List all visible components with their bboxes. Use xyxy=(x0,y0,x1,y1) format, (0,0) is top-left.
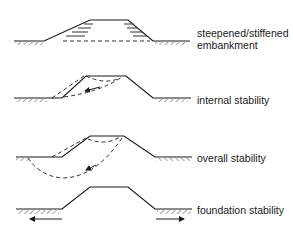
label-steepened-embankment: steepened/stiffened embankment xyxy=(197,27,288,51)
ground-hatch-right xyxy=(155,42,187,45)
ground-hatch-left xyxy=(15,99,47,102)
failure-wedge-dashed xyxy=(52,138,86,157)
embankment-outline xyxy=(16,187,192,209)
embankment-outline xyxy=(16,136,192,157)
label-line-1: foundation stability xyxy=(197,204,284,216)
panel-overall-stability xyxy=(16,136,192,178)
label-internal-stability: internal stability xyxy=(197,94,269,106)
ground-hatch-right xyxy=(156,158,190,161)
label-foundation-stability: foundation stability xyxy=(197,204,284,216)
slip-surface-upper-dashed xyxy=(88,137,120,142)
deep-slip-circle-dashed xyxy=(28,138,122,178)
label-line-1: overall stability xyxy=(197,152,266,164)
ground-hatch-right xyxy=(156,99,188,102)
embankment-outline xyxy=(14,20,190,41)
ground-hatch-left xyxy=(17,210,59,214)
slip-surface-upper-dashed xyxy=(86,76,120,81)
panel-steepened-embankment xyxy=(14,20,190,45)
label-line-1: steepened/stiffened xyxy=(197,27,288,39)
label-line-1: internal stability xyxy=(197,94,269,106)
reinforcement-layers-left xyxy=(66,24,93,36)
ground-hatch-left xyxy=(15,42,43,45)
embankment-outline xyxy=(14,76,191,98)
panel-internal-stability xyxy=(14,76,191,102)
label-line-2: embankment xyxy=(197,39,288,51)
panel-foundation-stability xyxy=(16,187,192,219)
ground-hatch-right xyxy=(157,210,191,214)
label-overall-stability: overall stability xyxy=(197,152,266,164)
